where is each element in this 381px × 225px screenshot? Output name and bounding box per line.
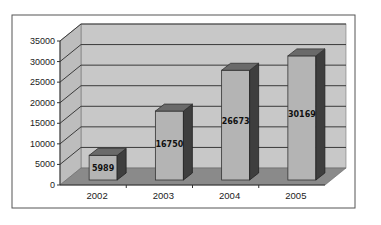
- y-tick-label: 10000: [30, 139, 55, 149]
- x-category-label: 2005: [285, 190, 306, 201]
- bar: 5989: [89, 148, 126, 180]
- y-tick-label: 5000: [35, 159, 55, 169]
- data-label: 26673: [222, 117, 250, 126]
- y-tick-label: 0: [50, 180, 55, 190]
- x-category-label: 2003: [153, 190, 174, 201]
- y-tick-label: 25000: [30, 77, 55, 87]
- y-tick-label: 35000: [30, 36, 55, 46]
- y-tick-label: 20000: [30, 98, 55, 108]
- bar-side: [183, 104, 192, 180]
- bar-side: [250, 63, 259, 180]
- x-category-label: 2002: [87, 190, 108, 201]
- x-category-label: 2004: [219, 190, 240, 201]
- bar: 26673: [222, 63, 259, 180]
- bar-side: [316, 49, 325, 180]
- data-label: 16750: [155, 140, 183, 149]
- side-wall: [60, 24, 81, 185]
- bar: 16750: [155, 104, 192, 180]
- y-tick-label: 15000: [30, 118, 55, 128]
- bar: 30169: [288, 49, 325, 180]
- column-chart: 05000100001500020000250003000035000 2002…: [0, 0, 381, 225]
- data-label: 30169: [288, 110, 316, 119]
- y-tick-label: 30000: [30, 57, 55, 67]
- data-label: 5989: [92, 164, 115, 173]
